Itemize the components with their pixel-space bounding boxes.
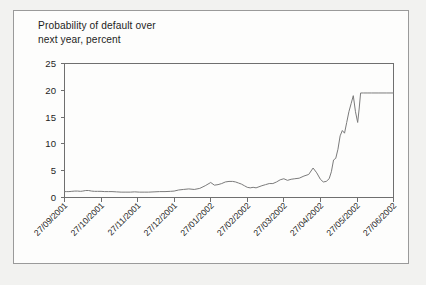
y-tick-label-25: 25 <box>45 58 56 69</box>
x-tick-label-5: 27/02/2002 <box>215 200 253 238</box>
x-tick-label-0: 27/09/2001 <box>32 200 70 238</box>
y-tick-label-0: 0 <box>51 192 56 203</box>
line-chart-svg: 0 5 10 15 20 25 27/09/2001 27/10/2001 <box>14 11 410 265</box>
x-tick-label-7: 27/04/2002 <box>288 200 326 238</box>
x-tick-label-2: 27/11/2001 <box>105 200 142 237</box>
x-tick-label-4: 27/01/2002 <box>178 200 216 238</box>
x-tick-label-1: 27/10/2001 <box>69 200 107 238</box>
chart-plot-area: 0 5 10 15 20 25 27/09/2001 27/10/2001 <box>14 11 410 265</box>
figure-card: Probability of default over next year, p… <box>13 10 409 264</box>
y-tick-label-10: 10 <box>45 138 56 149</box>
x-tick-label-9: 27/06/2002 <box>361 200 399 238</box>
y-tick-group: 0 5 10 15 20 25 <box>45 58 64 203</box>
x-tick-label-6: 27/03/2002 <box>251 200 289 238</box>
y-tick-label-5: 5 <box>51 165 56 176</box>
y-tick-label-20: 20 <box>45 85 56 96</box>
x-tick-label-8: 27/05/2002 <box>324 200 362 238</box>
series-line-default-probability <box>65 93 394 192</box>
x-tick-label-3: 27/12/2001 <box>142 200 180 238</box>
plot-frame <box>65 64 394 198</box>
x-tick-group: 27/09/2001 27/10/2001 27/11/2001 27/12/2… <box>32 198 399 238</box>
y-tick-label-15: 15 <box>45 112 56 123</box>
